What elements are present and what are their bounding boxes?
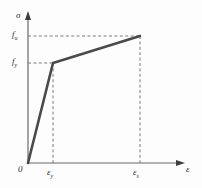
epsilon-axis-label: ε (186, 165, 190, 174)
tick-label-fu: fu (12, 30, 18, 41)
tick-label-fy-sub: y (15, 62, 18, 68)
tick-label-epsilon-s: εs (133, 168, 139, 179)
curve-polyline (28, 36, 140, 163)
stress-strain-chart (0, 0, 202, 188)
sigma-axis-label: σ (16, 11, 20, 20)
bilinear-curve (28, 36, 140, 163)
tick-label-epsilon-s-sub: s (137, 173, 139, 179)
origin-label: 0 (18, 165, 23, 174)
tick-label-epsilon-y: εy (47, 168, 53, 179)
tick-label-epsilon-y-sub: y (51, 173, 54, 179)
stress-axis (25, 11, 31, 163)
stress-strain-figure: σ ε fu fy εy εs 0 (0, 0, 202, 188)
tick-label-fy: fy (12, 57, 17, 68)
strain-axis (28, 160, 185, 166)
strain-axis-arrowhead (176, 160, 185, 166)
tick-label-fu-sub: u (15, 35, 18, 41)
stress-axis-arrowhead (25, 11, 31, 20)
